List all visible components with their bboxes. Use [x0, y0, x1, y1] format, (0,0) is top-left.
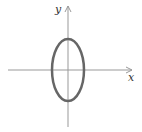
y-axis-label: y	[54, 3, 62, 16]
y-axis	[65, 6, 71, 127]
ellipse-diagram: x y	[0, 0, 142, 132]
x-axis-label: x	[128, 71, 135, 84]
x-axis	[8, 67, 132, 73]
